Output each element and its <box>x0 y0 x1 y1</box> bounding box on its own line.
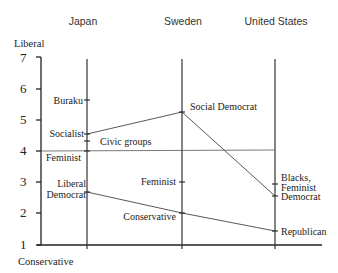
label-liberal-democrat-1: Liberal <box>57 178 86 189</box>
reference-line-4 <box>41 150 275 151</box>
y-tick-1: 1 <box>20 237 27 252</box>
label-socialist: Socialist <box>50 128 85 139</box>
label-conservative-sweden: Conservative <box>123 211 176 222</box>
y-tick-4: 4 <box>20 143 27 158</box>
y-tick-5: 5 <box>20 112 27 127</box>
y-tick-2: 2 <box>20 205 27 220</box>
header-japan: Japan <box>69 15 98 27</box>
point-markers <box>84 100 278 231</box>
header-sweden: Sweden <box>164 15 202 27</box>
label-feminist-sweden: Feminist <box>141 176 176 187</box>
y-axis <box>36 57 41 245</box>
label-democrat: Democrat <box>281 191 321 202</box>
label-buraku: Buraku <box>54 95 83 106</box>
header-united-states: United States <box>244 15 307 27</box>
label-republican: Republican <box>281 226 327 237</box>
ideology-chart: Japan Sweden United States Liberal Conse… <box>0 0 338 273</box>
label-civic-groups: Civic groups <box>100 136 151 147</box>
y-tick-6: 6 <box>20 81 27 96</box>
label-social-democrat: Social Democrat <box>190 101 257 112</box>
y-tick-3: 3 <box>20 174 27 189</box>
left-party-line <box>87 112 275 196</box>
label-liberal-democrat-2: Democrat <box>47 189 87 200</box>
country-axes <box>87 59 275 249</box>
y-axis-top-label: Liberal <box>14 38 44 49</box>
y-axis-bottom-label: Conservative <box>18 256 74 267</box>
label-feminist-japan: Feminist <box>46 152 81 163</box>
y-tick-7: 7 <box>20 50 27 65</box>
right-party-line <box>87 192 275 231</box>
